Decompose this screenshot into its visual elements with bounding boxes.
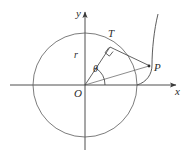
point-marker-p [148,65,151,68]
involute-diagram-svg [0,0,188,160]
y-axis-label: y [76,8,81,19]
x-axis-label: x [175,86,180,97]
theta-angle-label: θ [93,64,98,74]
involute-curve [137,14,158,85]
tangent-segment-tp [110,47,150,66]
point-label-p: P [154,62,161,73]
involute-figure: y x O T P r θ [0,0,188,160]
origin-label: O [74,88,82,99]
point-label-t: T [108,28,114,39]
radius-label: r [74,50,78,60]
